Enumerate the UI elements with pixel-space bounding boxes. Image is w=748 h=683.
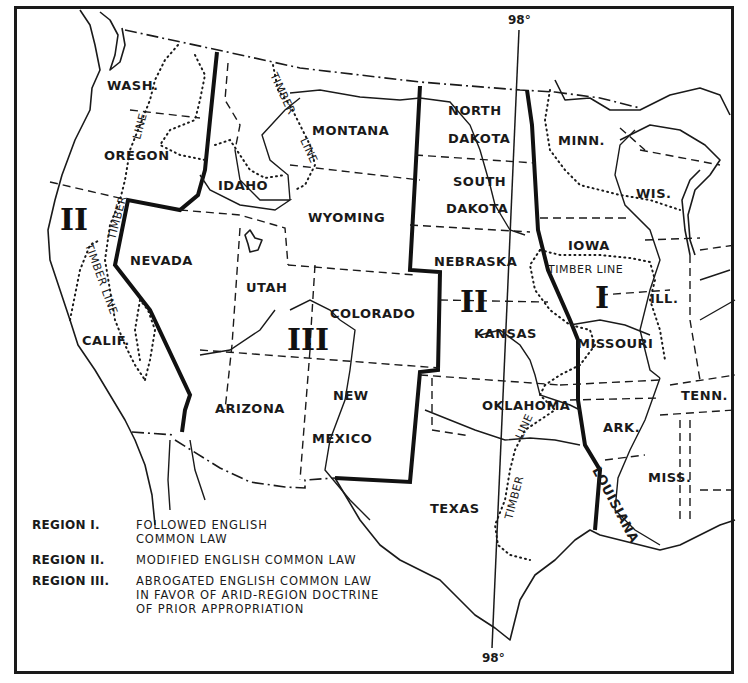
label-utah: UTAH	[246, 280, 287, 295]
timber-label-ca: TIMBER LINE	[82, 241, 120, 317]
timber-label-mt-line: LINE	[297, 136, 320, 166]
label-nevada: NEVADA	[130, 253, 193, 268]
label-montana: MONTANA	[312, 123, 389, 138]
label-nebraska: NEBRASKA	[434, 254, 517, 269]
label-calif: CALIF.	[82, 333, 130, 348]
label-dakota-s: DAKOTA	[446, 201, 508, 216]
mexico-border	[132, 432, 335, 488]
timber-label-wa-line: LINE	[130, 112, 149, 141]
state-borders	[50, 63, 735, 520]
legend-line: MODIFIED ENGLISH COMMON LAW	[136, 553, 356, 567]
legend-line: OF PRIOR APPROPRIATION	[136, 602, 379, 616]
timber-label-iowa: TIMBER LINE	[547, 263, 623, 276]
state-labels: WASH. OREGON CALIF. IDAHO NEVADA MONTANA…	[82, 78, 728, 546]
canada-border	[125, 30, 555, 92]
region-border-iii-ii-east	[335, 86, 440, 482]
puget-sound	[100, 12, 125, 70]
label-ark: ARK.	[603, 420, 640, 435]
region-iii-numeral: III	[287, 322, 329, 357]
label-arizona: ARIZONA	[215, 401, 285, 416]
legend-line: COMMON LAW	[136, 532, 268, 546]
legend-item-region-iii: REGION III. ABROGATED ENGLISH COMMON LAW…	[32, 574, 452, 616]
region-border-ii-iii-west	[115, 52, 217, 432]
label-wyoming: WYOMING	[308, 210, 385, 225]
label-dakota-n: DAKOTA	[448, 131, 510, 146]
meridian-98-label-bottom: 98°	[482, 651, 505, 665]
region-i-numeral: I	[595, 280, 609, 315]
label-idaho: IDAHO	[218, 178, 268, 193]
label-texas: TEXAS	[430, 501, 480, 516]
label-iowa: IOWA	[568, 238, 610, 253]
legend-desc: ABROGATED ENGLISH COMMON LAW IN FAVOR OF…	[136, 574, 379, 616]
region-border-i-ii	[527, 90, 600, 530]
label-missouri: MISSOURI	[577, 336, 653, 351]
timber-label-ok-line: LINE	[513, 412, 536, 442]
label-colorado: COLORADO	[330, 306, 415, 321]
legend-desc: MODIFIED ENGLISH COMMON LAW	[136, 553, 356, 567]
region-ii-east-numeral: II	[460, 284, 488, 319]
label-mexico: MEXICO	[312, 431, 372, 446]
label-south: SOUTH	[453, 174, 506, 189]
label-oklahoma: OKLAHOMA	[482, 398, 570, 413]
label-kansas: KANSAS	[474, 326, 537, 341]
label-new: NEW	[333, 388, 369, 403]
legend-desc: FOLLOWED ENGLISH COMMON LAW	[136, 518, 268, 546]
meridian-98-label-top: 98°	[508, 13, 531, 27]
legend: REGION I. FOLLOWED ENGLISH COMMON LAW RE…	[32, 518, 452, 623]
legend-line: FOLLOWED ENGLISH	[136, 518, 268, 532]
great-salt-lake	[245, 230, 262, 252]
label-minn: MINN.	[558, 133, 605, 148]
label-wash: WASH.	[107, 78, 159, 93]
legend-line: IN FAVOR OF ARID-REGION DOCTRINE	[136, 588, 379, 602]
label-oregon: OREGON	[104, 148, 170, 163]
label-north: NORTH	[448, 103, 502, 118]
legend-key: REGION II.	[32, 553, 136, 567]
legend-line: ABROGATED ENGLISH COMMON LAW	[136, 574, 379, 588]
lake-superior-shore	[555, 80, 730, 115]
label-wis: WIS.	[636, 186, 671, 201]
label-tenn: TENN.	[681, 388, 728, 403]
legend-item-region-ii: REGION II. MODIFIED ENGLISH COMMON LAW	[32, 553, 452, 567]
label-ill: ILL.	[650, 291, 678, 306]
region-ii-west-numeral: II	[60, 202, 88, 237]
legend-key: REGION III.	[32, 574, 136, 616]
label-miss: MISS.	[648, 470, 691, 485]
legend-key: REGION I.	[32, 518, 136, 546]
legend-item-region-i: REGION I. FOLLOWED ENGLISH COMMON LAW	[32, 518, 452, 546]
